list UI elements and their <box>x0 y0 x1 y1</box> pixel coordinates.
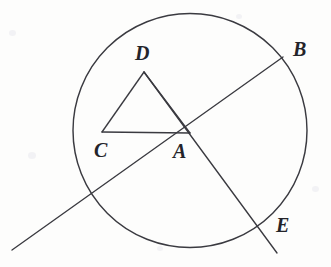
point-label-e: E <box>276 215 289 235</box>
main-circle <box>73 14 307 248</box>
segment-cd <box>102 72 144 132</box>
segment-da <box>144 72 190 133</box>
point-label-c: C <box>94 140 107 160</box>
geometry-figure: D B C A E <box>0 0 331 267</box>
point-label-d: D <box>135 43 149 63</box>
ray-b-through-a <box>12 57 283 250</box>
point-label-b: B <box>293 39 306 59</box>
point-label-a: A <box>173 141 186 161</box>
